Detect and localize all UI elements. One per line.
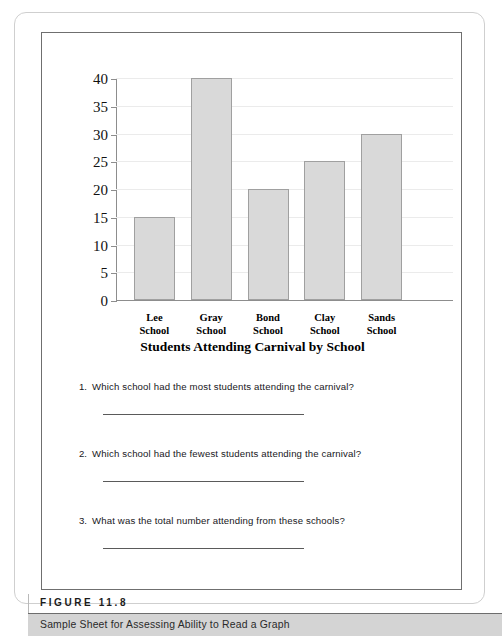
worksheet-sheet: 0510152025303540 LeeSchoolGraySchoolBond… [41,32,462,590]
y-tick-label: 0 [101,293,109,310]
y-tick-label: 5 [101,265,109,282]
y-tick-label: 10 [93,237,108,254]
x-axis-label-line: School [240,324,297,337]
y-tick-mark [111,135,116,136]
y-axis-line [116,79,117,302]
x-axis-label-sands-school: SandsSchool [353,311,410,337]
y-tick-mark [111,273,116,274]
y-tick-mark [111,107,116,108]
y-tick-label: 35 [93,98,108,115]
question-number: 3. [79,515,87,526]
question-text: Which school had the most students atten… [92,381,354,392]
gridline [116,78,453,79]
answer-line[interactable] [103,548,304,549]
bar-gray-school [191,78,232,300]
y-tick-mark [111,79,116,80]
question-number: 1. [79,381,87,392]
gridline [116,134,453,135]
gridline [116,106,453,107]
figure-label: FIGURE 11.8 [40,597,128,608]
question-text: Which school had the fewest students att… [92,448,361,459]
question-text: What was the total number attending from… [92,515,345,526]
x-axis-label-line: Lee [126,311,183,324]
bar-clay-school [304,161,345,300]
y-tick-mark [111,190,116,191]
x-axis-label-line: School [353,324,410,337]
bar-lee-school [134,217,175,300]
plot-area: 0510152025303540 LeeSchoolGraySchoolBond… [116,79,400,301]
question-block: 2.Which school had the fewest students a… [42,448,463,515]
y-tick-mark [111,301,116,302]
y-tick-label: 30 [93,126,108,143]
question-row: 1.Which school had the most students att… [79,381,354,392]
y-tick-mark [111,162,116,163]
x-axis-label-line: School [126,324,183,337]
y-tick-label: 25 [93,154,108,171]
x-axis-label-line: Clay [296,311,353,324]
answer-line[interactable] [103,414,304,415]
x-axis-label-line: Sands [353,311,410,324]
question-number: 2. [79,448,87,459]
bar-sands-school [361,134,402,301]
x-axis-label-lee-school: LeeSchool [126,311,183,337]
y-tick-label: 20 [93,182,108,199]
question-block: 3.What was the total number attending fr… [42,515,463,582]
x-axis-label-gray-school: GraySchool [183,311,240,337]
figure-page: 0510152025303540 LeeSchoolGraySchoolBond… [0,0,502,636]
x-axis-label-bond-school: BondSchool [240,311,297,337]
y-tick-mark [111,246,116,247]
y-tick-label: 15 [93,209,108,226]
bar-bond-school [248,189,289,300]
y-tick-label: 40 [93,71,108,88]
question-row: 3.What was the total number attending fr… [79,515,345,526]
question-row: 2.Which school had the fewest students a… [79,448,361,459]
figure-caption: Sample Sheet for Assessing Ability to Re… [40,619,290,630]
gridline [116,161,453,162]
x-axis-label-line: School [296,324,353,337]
x-axis-label-line: Gray [183,311,240,324]
x-axis-label-line: Bond [240,311,297,324]
y-tick-mark [111,218,116,219]
chart-title: Students Attending Carnival by School [42,339,463,355]
answer-line[interactable] [103,481,304,482]
bar-chart: 0510152025303540 LeeSchoolGraySchoolBond… [63,71,453,329]
question-list: 1.Which school had the most students att… [42,381,463,582]
question-block: 1.Which school had the most students att… [42,381,463,448]
x-axis-label-line: School [183,324,240,337]
x-axis-label-clay-school: ClaySchool [296,311,353,337]
